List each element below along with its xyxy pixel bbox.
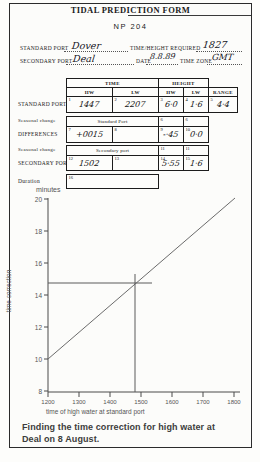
- y-tick-label: 16: [35, 260, 43, 267]
- x-tick-label: 1600: [165, 399, 179, 405]
- y-tick-marks: [44, 199, 48, 391]
- correction-line: [48, 198, 235, 359]
- y-tick-label: 8: [38, 388, 42, 395]
- y-unit-label: minutes: [36, 186, 61, 193]
- axes: [48, 198, 240, 392]
- y-tick-label: 12: [35, 324, 43, 331]
- x-tick-label: 1500: [134, 399, 148, 405]
- x-tick-label: 1300: [72, 399, 86, 405]
- y-tick-label: 10: [35, 356, 43, 363]
- time-correction-chart: minutes 20 18 16 14 12 10 8 1200 1300 14…: [0, 0, 260, 462]
- x-axis-label: time of high water at standard port: [46, 408, 145, 416]
- x-tick-marks: [48, 392, 234, 397]
- y-tick-label: 20: [35, 196, 43, 203]
- y-tick-label: 14: [35, 292, 43, 299]
- y-tick-label: 18: [35, 228, 43, 235]
- y-axis-label: time correction: [5, 269, 12, 312]
- x-tick-label: 1200: [41, 399, 55, 405]
- x-tick-label: 1800: [227, 399, 241, 405]
- caption-line-2: Deal on 8 August.: [22, 434, 99, 444]
- x-tick-label: 1700: [196, 399, 210, 405]
- x-tick-label: 1400: [103, 399, 117, 405]
- caption-line-1: Finding the time correction for high wat…: [22, 422, 215, 432]
- tidal-prediction-form-page: TIDAL PREDICTION FORM NP 204 STANDARD PO…: [0, 0, 260, 462]
